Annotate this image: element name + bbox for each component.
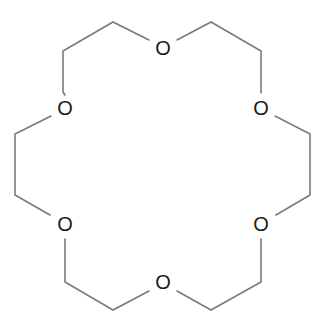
bond-path-top-left <box>63 22 149 95</box>
bond-path-top-right <box>177 22 261 93</box>
bond-path-bottom-right <box>177 239 261 310</box>
crown-ether-structure: O O O O O O <box>0 0 336 326</box>
bond-path-left <box>15 116 51 215</box>
oxygen-atom-top: O <box>155 37 171 59</box>
bond-path-right <box>275 116 310 215</box>
bonds <box>15 22 310 310</box>
atoms: O O O O O O <box>57 37 269 293</box>
oxygen-atom-upper-left: O <box>57 97 73 119</box>
oxygen-atom-bottom: O <box>155 271 171 293</box>
oxygen-atom-lower-left: O <box>57 213 73 235</box>
oxygen-atom-upper-right: O <box>253 97 269 119</box>
oxygen-atom-lower-right: O <box>253 213 269 235</box>
bond-path-bottom-left <box>65 239 149 310</box>
